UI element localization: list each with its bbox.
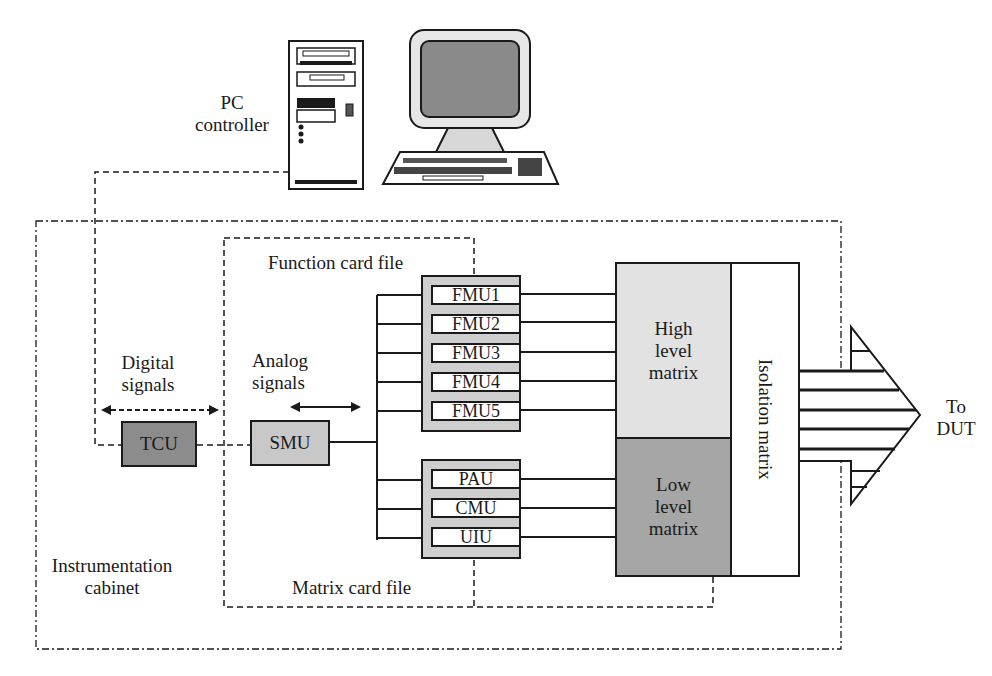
keyboard-icon bbox=[383, 152, 558, 184]
to-dut-line1: To bbox=[926, 396, 986, 418]
fmu4-card: FMU4 bbox=[431, 372, 521, 392]
digital-signals-line2: signals bbox=[108, 374, 188, 396]
analog-signals-line2: signals bbox=[252, 372, 308, 394]
high-level-matrix: High level matrix bbox=[615, 262, 732, 439]
to-dut-line2: DUT bbox=[926, 418, 986, 440]
tcu-box: TCU bbox=[121, 421, 197, 467]
isolation-matrix: Isolation matrix bbox=[730, 262, 800, 577]
to-dut-arrow bbox=[800, 327, 920, 504]
cabinet-label-line1: Instrumentation bbox=[42, 555, 182, 577]
low-matrix-line1: Low bbox=[656, 474, 691, 496]
instrumentation-cabinet-label: Instrumentation cabinet bbox=[42, 555, 182, 599]
isolation-matrix-label: Isolation matrix bbox=[754, 359, 776, 480]
fmu1-card: FMU1 bbox=[431, 285, 521, 305]
pc-controller-label: PC controller bbox=[192, 92, 272, 136]
monitor-icon bbox=[410, 30, 530, 152]
analog-signals-label: Analog signals bbox=[252, 350, 308, 394]
pau-card: PAU bbox=[431, 469, 521, 489]
function-card-file-label: Function card file bbox=[268, 252, 403, 274]
pc-label-line2: controller bbox=[192, 114, 272, 136]
fmu2-card: FMU2 bbox=[431, 314, 521, 334]
high-matrix-line2: level bbox=[655, 340, 692, 362]
fmu3-card: FMU3 bbox=[431, 343, 521, 363]
high-matrix-line1: High bbox=[655, 318, 693, 340]
low-matrix-line2: level bbox=[655, 496, 692, 518]
analog-signals-line1: Analog bbox=[252, 350, 308, 372]
cabinet-label-line2: cabinet bbox=[42, 577, 182, 599]
digital-signals-line1: Digital bbox=[108, 352, 188, 374]
digital-signals-label: Digital signals bbox=[108, 352, 188, 396]
fmu5-card: FMU5 bbox=[431, 401, 521, 421]
high-matrix-line3: matrix bbox=[649, 362, 699, 384]
low-level-matrix: Low level matrix bbox=[615, 437, 732, 577]
matrix-card-file-label: Matrix card file bbox=[292, 577, 411, 599]
smu-box: SMU bbox=[250, 420, 330, 466]
uiu-card: UIU bbox=[431, 527, 521, 547]
low-matrix-line3: matrix bbox=[649, 518, 699, 540]
pc-label-line1: PC bbox=[192, 92, 272, 114]
cmu-card: CMU bbox=[431, 498, 521, 518]
to-dut-label: To DUT bbox=[926, 396, 986, 440]
pc-tower-icon bbox=[289, 41, 363, 189]
pc-tcu-link bbox=[95, 172, 289, 445]
